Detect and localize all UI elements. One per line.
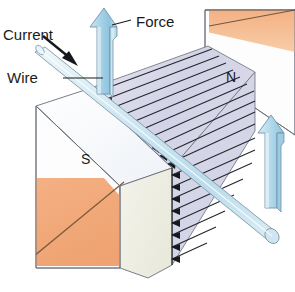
force-leader-line [112,20,131,25]
diagram-canvas: 0 [0,0,295,292]
current-label: Current [3,26,54,43]
force-arrow-main [90,8,117,97]
wire-label: Wire [7,69,38,86]
force-label: Force [136,13,174,30]
force-arrow-secondary [258,115,284,212]
force-arrow-secondary-side [277,133,284,212]
north-pole-label: N [226,69,236,85]
south-pole-label: S [81,151,90,167]
south-magnet-side-face [120,168,172,278]
motor-effect-diagram: 0 [0,0,295,292]
